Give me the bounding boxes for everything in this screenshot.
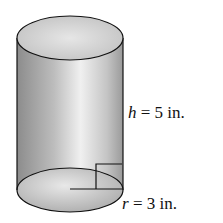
cylinder-diagram xyxy=(0,0,223,223)
cylinder-bottom-face xyxy=(17,168,123,212)
radius-variable: r xyxy=(122,194,129,213)
radius-value: = 3 in. xyxy=(129,194,177,213)
height-value: = 5 in. xyxy=(137,103,185,122)
radius-label: r = 3 in. xyxy=(122,195,177,212)
height-label: h = 5 in. xyxy=(128,104,185,121)
height-variable: h xyxy=(128,103,137,122)
cylinder-top-face xyxy=(17,16,123,60)
